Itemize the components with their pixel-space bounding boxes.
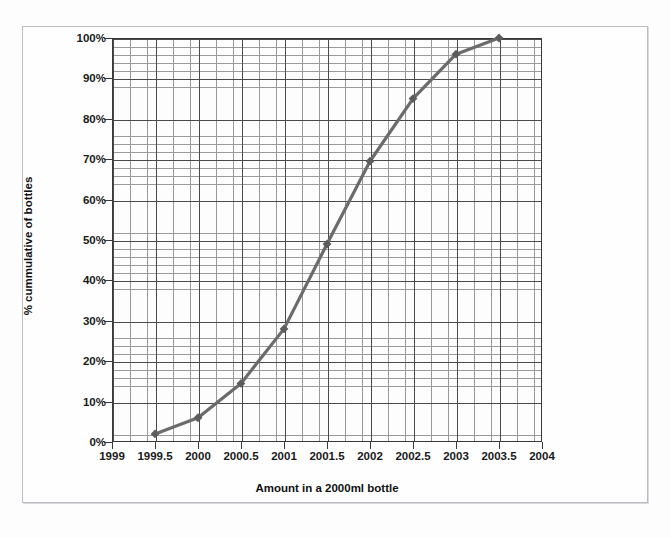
x-tick-mark	[284, 442, 285, 449]
x-axis-title: Amount in a 2000ml bottle	[112, 482, 542, 494]
y-tick-label: 20%	[83, 355, 106, 367]
data-point-marker	[495, 34, 504, 43]
y-tick-mark	[104, 361, 112, 362]
y-tick-mark	[104, 321, 112, 322]
x-tick-mark	[542, 442, 543, 449]
x-tick-label: 2002	[357, 450, 383, 462]
series-line	[155, 38, 499, 434]
x-tick-mark	[456, 442, 457, 449]
x-tick-label: 1999	[99, 450, 125, 462]
x-tick-label: 2003	[443, 450, 469, 462]
y-tick-label: 90%	[83, 72, 106, 84]
y-tick-mark	[104, 442, 112, 443]
y-tick-label: 100%	[77, 32, 106, 44]
x-tick-mark	[112, 442, 113, 449]
x-tick-mark	[155, 442, 156, 449]
data-point-marker	[151, 430, 160, 439]
x-tick-mark	[499, 442, 500, 449]
y-tick-label: 50%	[83, 234, 106, 246]
x-tick-label: 2000	[185, 450, 211, 462]
y-tick-mark	[104, 402, 112, 403]
x-tick-label: 2004	[529, 450, 555, 462]
y-tick-label: 70%	[83, 153, 106, 165]
x-tick-label: 2001.5	[309, 450, 344, 462]
x-tick-mark	[198, 442, 199, 449]
y-tick-mark	[104, 200, 112, 201]
y-tick-label: 10%	[83, 396, 106, 408]
y-tick-mark	[104, 280, 112, 281]
y-tick-mark	[104, 240, 112, 241]
x-tick-label: 2001	[271, 450, 297, 462]
y-axis-title: % cummulative of bottles	[22, 156, 34, 336]
x-tick-label: 2003.5	[481, 450, 516, 462]
y-tick-mark	[104, 119, 112, 120]
y-tick-label: 60%	[83, 194, 106, 206]
y-tick-label: 40%	[83, 274, 106, 286]
x-axis-tick-labels: 19991999.520002000.520012001.520022002.5…	[112, 450, 542, 470]
x-tick-label: 2000.5	[223, 450, 258, 462]
x-tick-mark	[241, 442, 242, 449]
x-tick-mark	[370, 442, 371, 449]
y-tick-mark	[104, 78, 112, 79]
line-chart: 0%10%20%30%40%50%60%70%80%90%100% 199919…	[0, 0, 671, 538]
y-tick-label: 80%	[83, 113, 106, 125]
x-tick-label: 2002.5	[395, 450, 430, 462]
y-axis-tick-labels: 0%10%20%30%40%50%60%70%80%90%100%	[58, 38, 106, 442]
y-tick-mark	[104, 38, 112, 39]
x-tick-mark	[327, 442, 328, 449]
y-tick-label: 30%	[83, 315, 106, 327]
series-layer	[112, 38, 542, 442]
x-tick-mark	[413, 442, 414, 449]
x-tick-label: 1999.5	[137, 450, 172, 462]
y-tick-mark	[104, 159, 112, 160]
